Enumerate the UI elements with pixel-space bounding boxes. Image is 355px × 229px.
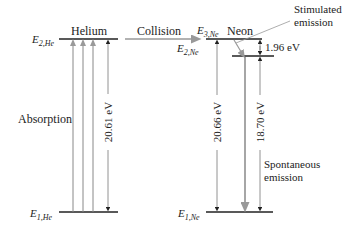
neon-gap-2-1-label: 18.70 eV — [254, 102, 266, 142]
neon-level1-label: E1,Ne — [177, 207, 200, 222]
absorption-label: Absorption — [18, 112, 72, 126]
collision-label: Collision — [137, 24, 181, 38]
helium-gap-label: 20.61 eV — [102, 102, 114, 142]
stimulated-emission-label: Stimulated emission — [294, 3, 344, 28]
neon-level3-label: E3,Ne — [196, 24, 219, 39]
helium-lower-level-label: E1,He — [29, 207, 53, 222]
neon-title: Neon — [227, 24, 253, 38]
neon-gap-3-1-label: 20.66 eV — [211, 102, 223, 142]
absorption-arrows — [73, 42, 93, 212]
helium-upper-level-label: E2,He — [31, 33, 55, 48]
helium-title: Helium — [71, 24, 108, 38]
spontaneous-emission-label: Spontaneous emission — [264, 158, 323, 183]
neon-level2-label: E2,Ne — [176, 42, 199, 57]
energy-level-diagram: 20.61 eV Helium E2,He E1,He Absorption C… — [0, 0, 355, 229]
stimulated-emission-arrow — [234, 40, 245, 208]
neon-gap-3-2-label: 1.96 eV — [265, 41, 300, 53]
